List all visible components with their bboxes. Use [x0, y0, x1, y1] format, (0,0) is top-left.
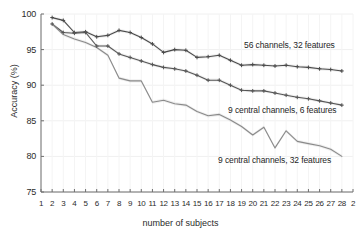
series-annotation-9ch-6feat: 9 central channels, 6 features [228, 105, 337, 115]
x-axis-title: number of subjects [0, 218, 361, 228]
y-axis-tick-label: 100 [14, 10, 36, 19]
y-axis-tick-label: 80 [14, 152, 36, 161]
y-axis-tick-label: 75 [14, 188, 36, 197]
series-annotation-9ch-32feat: 9 central channels, 32 features [218, 155, 331, 165]
series-annotation-56ch-32feat: 56 channels, 32 features [244, 40, 335, 50]
y-axis-title: Accuracy (%) [9, 51, 19, 131]
chart-figure: 7580859095100 12345678910111213141516171… [0, 0, 361, 242]
x-axis-tick-label: 2 [346, 200, 360, 208]
